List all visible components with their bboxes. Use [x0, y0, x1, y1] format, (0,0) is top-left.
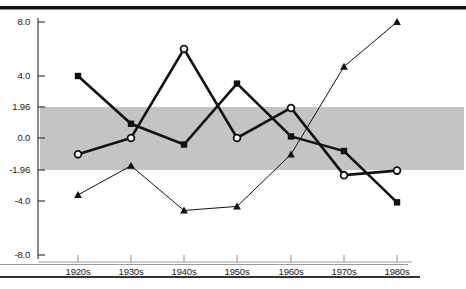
marker-filled-square [288, 133, 294, 139]
marker-filled-square [128, 121, 134, 127]
data-point [234, 135, 241, 142]
y-axis-tick-label: 0.0 [2, 132, 30, 143]
data-point [128, 135, 135, 142]
data-point [341, 172, 348, 179]
data-point [288, 105, 295, 112]
axis-baseline-rule [0, 264, 408, 265]
significance-band [40, 107, 464, 170]
marker-open-circle [75, 151, 82, 158]
figure-panel: 8.04.01.960.0-1.96-4.0-8.0 1920s1930s194… [0, 0, 466, 289]
y-axis-tick-label: -1.96 [2, 164, 30, 175]
data-point [234, 80, 240, 86]
marker-filled-square [181, 141, 187, 147]
data-point [393, 18, 401, 25]
data-point [341, 148, 347, 154]
marker-open-circle [394, 167, 401, 174]
data-point [288, 133, 294, 139]
y-axis-tick-label: -8.0 [2, 249, 30, 260]
marker-filled-triangle [393, 18, 401, 25]
chart-plot-area [0, 0, 466, 289]
marker-filled-square [341, 148, 347, 154]
marker-open-circle [234, 135, 241, 142]
marker-open-circle [181, 46, 188, 53]
data-point [394, 167, 401, 174]
marker-filled-triangle [74, 191, 82, 198]
marker-filled-square [234, 80, 240, 86]
data-point [181, 141, 187, 147]
y-axis-tick-label: 1.96 [2, 101, 30, 112]
y-axis-tick-label: -4.0 [2, 195, 30, 206]
y-axis-tick-label: 8.0 [2, 16, 30, 27]
marker-filled-square [394, 199, 400, 205]
data-point [181, 46, 188, 53]
data-point [75, 151, 82, 158]
data-point [128, 121, 134, 127]
marker-open-circle [288, 105, 295, 112]
bottom-rule-divider [0, 276, 420, 278]
data-point [75, 73, 81, 79]
marker-open-circle [128, 135, 135, 142]
y-axis-tick-label: 4.0 [2, 70, 30, 81]
marker-open-circle [341, 172, 348, 179]
data-point [74, 191, 82, 198]
marker-filled-square [75, 73, 81, 79]
data-point [394, 199, 400, 205]
